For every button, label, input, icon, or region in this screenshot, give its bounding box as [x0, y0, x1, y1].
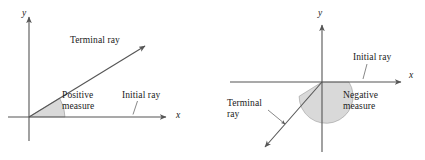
initial-ray-leader	[363, 64, 367, 79]
initial-ray-label: Initial ray	[353, 52, 391, 63]
terminal-ray-label: Terminal ray	[70, 35, 120, 46]
angle-measure-figure: y x Terminal ray Positive measure Initia…	[0, 0, 425, 160]
negative-measure-label-line1: Negative	[343, 90, 378, 100]
terminal-ray-label: Terminal ray	[227, 98, 262, 120]
positive-measure-label: Positive measure	[62, 90, 94, 112]
initial-ray-leader	[133, 101, 138, 115]
positive-angle-svg	[0, 0, 213, 160]
positive-angle-diagram: y x Terminal ray Positive measure Initia…	[0, 0, 213, 160]
terminal-ray-label-line1: Terminal	[227, 98, 262, 108]
negative-measure-label-line2: measure	[343, 101, 375, 111]
y-axis-label: y	[22, 8, 26, 18]
positive-measure-label-line1: Positive	[62, 90, 93, 100]
negative-angle-diagram: y x Initial ray Negative measure Termina…	[213, 0, 425, 160]
x-axis-label: x	[176, 110, 180, 120]
negative-angle-svg	[213, 0, 425, 160]
terminal-ray-label-line2: ray	[227, 109, 239, 119]
negative-measure-label: Negative measure	[343, 90, 378, 112]
initial-ray-label: Initial ray	[122, 90, 160, 101]
positive-measure-label-line2: measure	[62, 101, 94, 111]
terminal-ray-leader	[268, 110, 285, 124]
y-axis-label: y	[318, 8, 322, 18]
x-axis-label: x	[409, 70, 413, 80]
